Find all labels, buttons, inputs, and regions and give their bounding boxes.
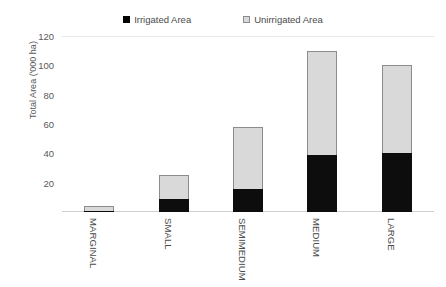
bar-group[interactable] <box>233 36 263 212</box>
bar-group[interactable] <box>159 36 189 212</box>
bar-segment-unirrigated[interactable] <box>382 65 412 153</box>
y-axis-tick-label: 60 <box>14 119 54 130</box>
bar-segment-irrigated[interactable] <box>233 189 263 212</box>
x-axis-label-slot: SEMIMEDIUM <box>211 214 285 287</box>
x-axis-label-slot: LARGE <box>360 214 434 287</box>
y-axis-tick-label: 80 <box>14 89 54 100</box>
x-axis-category-label: MARGINAL <box>88 218 99 268</box>
legend-swatch-unirrigated-icon <box>243 16 250 23</box>
bar-segment-unirrigated[interactable] <box>307 51 337 155</box>
y-axis-tick-labels: 20406080100120 <box>10 36 54 212</box>
bar-segment-irrigated[interactable] <box>307 155 337 212</box>
bar-group[interactable] <box>382 36 412 212</box>
legend-label-irrigated: Irrigated Area <box>134 14 191 25</box>
bar-segment-irrigated[interactable] <box>159 199 189 212</box>
bar-stack <box>159 175 189 212</box>
legend-swatch-irrigated-icon <box>123 16 130 23</box>
bar-segment-irrigated[interactable] <box>84 211 114 212</box>
legend-item-irrigated: Irrigated Area <box>123 14 191 25</box>
bar-group[interactable] <box>84 36 114 212</box>
x-axis-label-slot: SMALL <box>136 214 210 287</box>
legend-label-unirrigated: Unirrigated Area <box>254 14 323 25</box>
y-axis-tick-label: 100 <box>14 60 54 71</box>
x-axis-category-label: LARGE <box>386 218 397 251</box>
bar-stack <box>84 206 114 212</box>
bar-stack <box>307 51 337 212</box>
x-axis-category-label: SEMIMEDIUM <box>237 218 248 281</box>
legend-item-unirrigated: Unirrigated Area <box>243 14 323 25</box>
bar-segment-unirrigated[interactable] <box>159 175 189 198</box>
y-axis-tick-label: 120 <box>14 31 54 42</box>
x-axis-category-labels: MARGINALSMALLSEMIMEDIUMMEDIUMLARGE <box>62 214 434 287</box>
bar-series-layer <box>62 36 434 212</box>
bar-stack <box>382 65 412 212</box>
x-axis-category-label: SMALL <box>163 218 174 250</box>
y-axis-tick-label: 20 <box>14 177 54 188</box>
bar-stack <box>233 127 263 212</box>
chart-container: Irrigated Area Unirrigated Area Total Ar… <box>0 0 446 287</box>
x-axis-label-slot: MARGINAL <box>62 214 136 287</box>
x-axis-label-slot: MEDIUM <box>285 214 359 287</box>
x-axis-category-label: MEDIUM <box>311 218 322 257</box>
y-axis-tick-label: 40 <box>14 148 54 159</box>
bar-segment-unirrigated[interactable] <box>233 127 263 189</box>
bar-group[interactable] <box>307 36 337 212</box>
bar-segment-irrigated[interactable] <box>382 153 412 212</box>
chart-legend: Irrigated Area Unirrigated Area <box>0 10 446 28</box>
